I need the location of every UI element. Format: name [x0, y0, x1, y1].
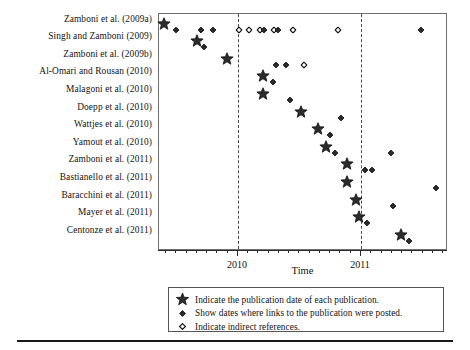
legend-item-open-diamond: Indicate indirect references.	[169, 319, 443, 334]
x-axis-minor-tick	[298, 250, 299, 253]
x-axis-minor-tick	[186, 250, 187, 253]
x-axis-minor-tick	[309, 250, 310, 253]
data-point-filled-diamond-r1-1	[201, 37, 208, 44]
data-point-filled-diamond-r12-1	[405, 230, 412, 237]
data-point-filled-diamond-r0-9	[275, 19, 282, 26]
data-point-filled-diamond-r6-1	[327, 125, 334, 132]
bottom-rule	[17, 340, 453, 342]
data-point-open-diamond-r0-5	[246, 19, 253, 26]
x-axis-minor-tick	[278, 250, 279, 253]
x-axis-minor-tick	[268, 250, 269, 253]
x-axis-minor-tick	[227, 250, 228, 253]
data-point-filled-diamond-r0-1	[173, 19, 180, 26]
data-point-filled-diamond-r2-2	[283, 54, 290, 61]
open-diamond-icon	[169, 323, 195, 330]
year-reference-line-1	[361, 14, 362, 249]
x-axis-minor-tick	[329, 250, 330, 253]
y-axis-label-row-11: Mayer et al. (2011)	[0, 207, 152, 217]
x-axis-minor-tick	[422, 250, 423, 253]
data-point-filled-diamond-r9-1	[432, 177, 439, 184]
data-point-filled-diamond-r3-1	[269, 72, 276, 79]
year-reference-line-0	[238, 14, 239, 249]
data-point-open-diamond-r0-11	[334, 19, 341, 26]
x-axis-minor-tick	[339, 250, 340, 253]
x-axis-minor-tick	[411, 250, 412, 253]
figure-container: Zamboni et al. (2009a)Singh and Zamboni …	[0, 0, 470, 350]
y-axis-label-row-8: Zamboni et al. (2011)	[0, 154, 152, 164]
x-axis-minor-tick	[442, 250, 443, 253]
data-point-star-r2-0	[220, 51, 233, 64]
data-point-star-r12-0	[394, 227, 407, 240]
x-axis-minor-tick	[165, 250, 166, 253]
y-axis-label-row-12: Centonze et al. (2011)	[0, 225, 152, 235]
data-point-open-diamond-r0-6	[256, 19, 263, 26]
data-point-open-diamond-r0-10	[290, 19, 297, 26]
data-point-filled-diamond-r8-1	[362, 160, 369, 167]
x-axis-minor-tick	[175, 250, 176, 253]
data-point-filled-diamond-r4-1	[286, 89, 293, 96]
data-point-filled-diamond-r0-2	[198, 19, 205, 26]
x-axis-major-tick	[237, 250, 238, 256]
filled-diamond-icon	[169, 310, 195, 317]
data-point-filled-diamond-r11-1	[364, 213, 371, 220]
data-point-star-r5-0	[294, 104, 307, 117]
data-point-filled-diamond-r5-1	[338, 107, 345, 114]
x-axis-minor-tick	[350, 250, 351, 253]
data-point-filled-diamond-r0-12	[418, 19, 425, 26]
x-axis-minor-tick	[288, 250, 289, 253]
legend-item-label: Show dates where links to the publicatio…	[195, 308, 402, 318]
data-point-star-r7-0	[320, 139, 333, 152]
y-axis-label-row-6: Wattjes et al. (2010)	[0, 119, 152, 129]
data-point-open-diamond-r2-3	[301, 54, 308, 61]
x-axis-minor-tick	[381, 250, 382, 253]
y-axis-label-row-2: Zamboni et al. (2009b)	[0, 49, 152, 59]
star-icon	[169, 293, 195, 306]
x-axis: 20102011	[158, 250, 447, 264]
data-point-star-r11-0	[352, 210, 365, 223]
data-point-star-r4-0	[257, 86, 270, 99]
data-point-filled-diamond-r0-3	[210, 19, 217, 26]
y-axis-label-row-9: Bastianello et al. (2011)	[0, 172, 152, 182]
data-point-filled-diamond-r8-2	[368, 160, 375, 167]
x-axis-minor-tick	[319, 250, 320, 253]
data-point-open-diamond-r0-8	[270, 19, 277, 26]
data-point-star-r6-0	[311, 122, 324, 135]
x-axis-minor-tick	[401, 250, 402, 253]
x-axis-minor-tick	[391, 250, 392, 253]
data-point-star-r0-0	[158, 16, 171, 29]
y-axis-label-row-10: Baracchini et al. (2011)	[0, 190, 152, 200]
y-axis-label-row-1: Singh and Zamboni (2009)	[0, 31, 152, 41]
data-point-open-diamond-r0-4	[236, 19, 243, 26]
x-axis-title: Time	[158, 265, 447, 276]
y-axis-label-row-7: Yamout et al. (2010)	[0, 137, 152, 147]
x-axis-minor-tick	[206, 250, 207, 253]
data-point-filled-diamond-r7-2	[388, 142, 395, 149]
legend-item-label: Indicate the publication date of each pu…	[195, 295, 379, 305]
y-axis-label-row-4: Malagoni et al. (2010)	[0, 84, 152, 94]
data-point-filled-diamond-r7-1	[332, 142, 339, 149]
data-point-star-r8-0	[341, 157, 354, 170]
data-point-filled-diamond-r0-7	[260, 19, 267, 26]
data-point-star-r3-0	[257, 69, 270, 82]
y-axis-label-row-0: Zamboni et al. (2009a)	[0, 14, 152, 24]
y-axis-label-row-3: Al-Omari and Rousan (2010)	[0, 66, 152, 76]
x-axis-line	[158, 250, 447, 251]
data-point-filled-diamond-r10-1	[390, 195, 397, 202]
data-point-star-r9-0	[341, 174, 354, 187]
x-axis-minor-tick	[247, 250, 248, 253]
plot-area	[158, 13, 447, 250]
legend-item-label: Indicate indirect references.	[195, 322, 300, 332]
x-axis-minor-tick	[216, 250, 217, 253]
x-axis-minor-tick	[370, 250, 371, 253]
x-axis-minor-tick	[257, 250, 258, 253]
legend-box: Indicate the publication date of each pu…	[168, 287, 444, 332]
x-axis-minor-tick	[196, 250, 197, 253]
x-axis-major-tick	[360, 250, 361, 256]
x-axis-minor-tick	[432, 250, 433, 253]
data-point-star-r1-0	[190, 34, 203, 47]
y-axis-label-row-5: Doepp et al. (2010)	[0, 102, 152, 112]
data-point-filled-diamond-r2-1	[273, 54, 280, 61]
